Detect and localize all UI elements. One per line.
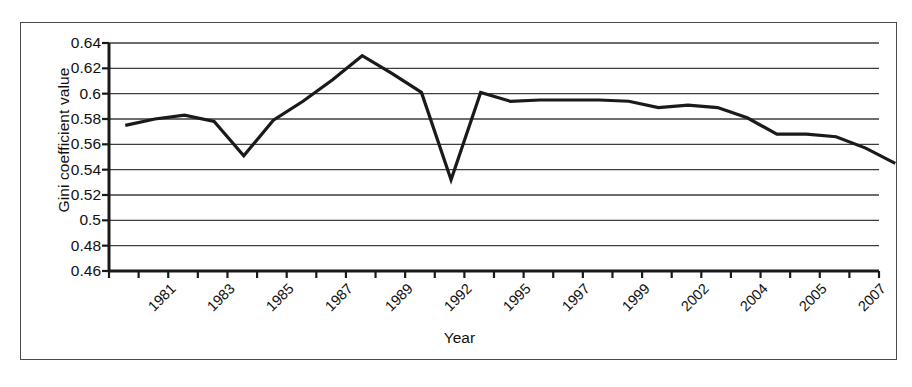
y-tick-label: 0.54 (71, 162, 101, 178)
x-tick-label: 1983 (204, 281, 237, 314)
y-tick-label: 0.62 (71, 61, 101, 77)
x-tick-label: 2004 (737, 281, 770, 314)
x-tick-label: 1989 (382, 281, 415, 314)
plot-area (109, 43, 879, 271)
chart-frame: Gini coefficient value 0.640.620.60.580.… (20, 22, 897, 360)
y-tick-label: 0.48 (71, 238, 101, 254)
x-tick-label: 2005 (797, 281, 830, 314)
x-tick-label: 1987 (323, 281, 356, 314)
page-caption-fragment (56, 368, 856, 384)
data-series-line (125, 56, 895, 180)
x-tick-label: 1997 (560, 281, 593, 314)
y-tick-label: 0.52 (71, 187, 101, 203)
x-tick-label: 1985 (264, 281, 297, 314)
y-tick-label: 0.58 (71, 111, 101, 127)
chart-figure: Gini coefficient value 0.640.620.60.580.… (0, 0, 912, 387)
gridlines (109, 43, 879, 271)
y-tick-label: 0.6 (79, 86, 101, 102)
x-tick-label: 1999 (619, 281, 652, 314)
x-tick-label: 1992 (441, 281, 474, 314)
x-tick-label: 2007 (856, 281, 889, 314)
y-tick-label: 0.64 (71, 35, 101, 51)
x-tick-label: 1995 (500, 281, 533, 314)
plot-svg (109, 43, 879, 271)
x-tick-label: 1981 (145, 281, 178, 314)
axis-lines (109, 43, 879, 271)
y-tick-label: 0.56 (71, 137, 101, 153)
y-axis-tick-labels: 0.640.620.60.580.560.540.520.50.480.46 (21, 43, 105, 271)
x-axis-title: Year (21, 329, 898, 347)
y-tick-label: 0.5 (79, 213, 101, 229)
x-tick-label: 2002 (678, 281, 711, 314)
y-tick-label: 0.46 (71, 263, 101, 279)
